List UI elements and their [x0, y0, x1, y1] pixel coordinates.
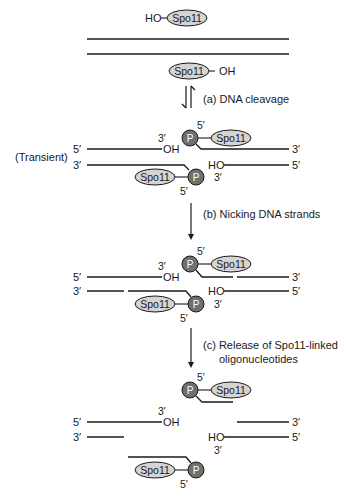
- stage-3-nicked: 5′ 3′ OH P 5′ Spo11 3′ 3′ HO 5′ Spo11 P …: [73, 245, 300, 324]
- ho-label: HO: [208, 285, 225, 297]
- step-a-arrow: (a) DNA cleavage: [182, 86, 289, 108]
- phosphate-label: P: [193, 299, 200, 310]
- spo11-label: Spo11: [216, 384, 246, 396]
- five-prime-label: 5′: [73, 416, 81, 428]
- oh-label: OH: [163, 143, 180, 155]
- five-prime-label: 5′: [197, 245, 205, 257]
- spo11-label: Spo11: [140, 464, 170, 476]
- spo11-label: Spo11: [172, 12, 202, 24]
- spo11-label: Spo11: [140, 298, 170, 310]
- five-prime-label: 5′: [73, 143, 81, 155]
- five-prime-label: 5′: [197, 371, 205, 383]
- five-prime-label: 5′: [180, 478, 188, 490]
- three-prime-label: 3′: [73, 159, 81, 171]
- phosphate-label: P: [193, 465, 200, 476]
- phosphate-label: P: [193, 172, 200, 183]
- spo11-label: Spo11: [216, 258, 246, 270]
- ho-label: HO: [208, 159, 225, 171]
- phosphate-label: P: [187, 385, 194, 396]
- five-prime-label: 5′: [197, 119, 205, 131]
- phosphate-label: P: [187, 133, 194, 144]
- five-prime-label: 5′: [292, 285, 300, 297]
- five-prime-label: 5′: [292, 159, 300, 171]
- three-prime-label: 3′: [214, 444, 222, 456]
- oh-label: OH: [163, 416, 180, 428]
- dna-strand: [87, 165, 189, 170]
- five-prime-label: 5′: [73, 271, 81, 283]
- ho-label: HO: [145, 12, 162, 24]
- stage-2-transient-complex: (Transient) 5′ 3′ OH P 5′ Spo11 3′ 3′ HO…: [15, 119, 300, 197]
- step-b-label: (b) Nicking DNA strands: [203, 208, 321, 220]
- three-prime-label: 3′: [292, 416, 300, 428]
- half-arrowhead-icon: [191, 86, 195, 90]
- step-c-label-line2: oligonucleotides: [219, 353, 298, 365]
- transient-label: (Transient): [15, 151, 68, 163]
- step-a-label: (a) DNA cleavage: [203, 93, 289, 105]
- stage-1-intact-dna: HO Spo11 Spo11 OH: [87, 10, 289, 79]
- spo11-label: Spo11: [174, 65, 204, 77]
- arrowhead-icon: [188, 234, 194, 240]
- three-prime-label: 3′: [214, 298, 222, 310]
- step-c-arrow: (c) Release of Spo11-linked oligonucleot…: [188, 328, 338, 368]
- spo11-label: Spo11: [216, 132, 246, 144]
- spo11-label: Spo11: [140, 171, 170, 183]
- step-b-arrow: (b) Nicking DNA strands: [188, 203, 321, 240]
- three-prime-label: 3′: [73, 431, 81, 443]
- phosphate-label: P: [187, 259, 194, 270]
- three-prime-label: 3′: [292, 271, 300, 283]
- three-prime-label: 3′: [292, 143, 300, 155]
- ho-label: HO: [208, 431, 225, 443]
- five-prime-label: 5′: [180, 312, 188, 324]
- five-prime-label: 5′: [292, 431, 300, 443]
- arrowhead-icon: [188, 362, 194, 368]
- oh-label: OH: [219, 65, 236, 77]
- oh-label: OH: [163, 271, 180, 283]
- stage-4-released: P 5′ Spo11 5′ 3′ OH 3′ 3′ HO 5′ 3′ Spo11…: [73, 371, 300, 490]
- spo11-dsb-diagram: HO Spo11 Spo11 OH (a) DNA cleavage (Tran…: [0, 0, 346, 499]
- three-prime-label: 3′: [73, 285, 81, 297]
- three-prime-label: 3′: [214, 171, 222, 183]
- step-c-label-line1: (c) Release of Spo11-linked: [203, 339, 338, 351]
- five-prime-label: 5′: [180, 185, 188, 197]
